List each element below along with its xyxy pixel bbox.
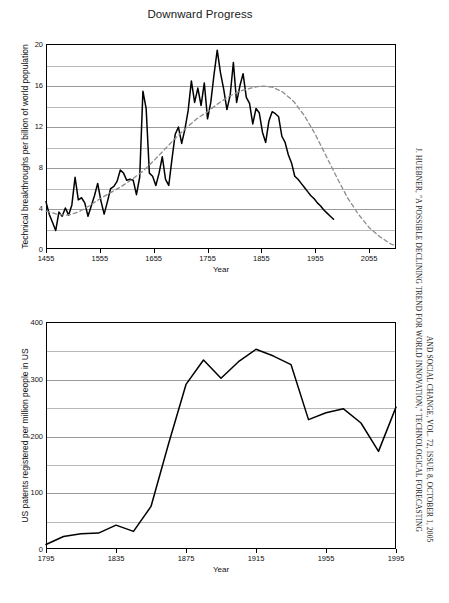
x-axis-tick-label: 1855 — [253, 254, 270, 263]
x-axis-tick-label: 1955 — [318, 554, 335, 563]
y-axis-tick-label: 300 — [28, 374, 43, 383]
y-axis-tick-label: 20 — [28, 40, 43, 49]
y-axis-tick-label: 12 — [28, 122, 43, 131]
x-axis-tick-label: 1555 — [92, 254, 109, 263]
y-axis-tick-label: 100 — [28, 488, 43, 497]
x-axis-tick — [116, 549, 117, 553]
x-axis-tick-label: 1955 — [307, 254, 324, 263]
x-axis-tick-label: 1995 — [388, 554, 405, 563]
citation-line-1: J. HUEBNER, "A POSSIBLE DECLINING TREND … — [414, 148, 423, 532]
x-axis-tick — [46, 249, 47, 253]
x-axis-tick — [208, 249, 209, 253]
x-axis-tick — [396, 549, 397, 553]
x-axis-tick — [46, 549, 47, 553]
y-axis-tick-label: 400 — [28, 318, 43, 327]
data-line — [46, 349, 396, 544]
x-axis-label: Year — [46, 565, 396, 574]
x-axis-tick-label: 1915 — [248, 554, 265, 563]
chart-innovation: 0481216201455155516551755185519552055Yea… — [0, 22, 410, 282]
x-axis-label: Year — [46, 265, 396, 274]
y-axis-tick-label: 4 — [28, 204, 43, 213]
y-axis-tick-label: 0 — [28, 545, 43, 554]
citation-line-2: AND SOCIAL CHANGE, VOL. 72, ISSUE 8, OCT… — [425, 336, 434, 542]
x-axis-tick-label: 1875 — [178, 554, 195, 563]
x-axis-tick-label: 1835 — [108, 554, 125, 563]
x-axis-tick — [186, 549, 187, 553]
x-axis-tick — [315, 249, 316, 253]
chart-us-patents: 0100200300400179518351875191519551995Yea… — [0, 300, 410, 600]
x-axis-tick — [369, 249, 370, 253]
x-axis-tick — [154, 249, 155, 253]
x-axis-tick-label: 1455 — [38, 254, 55, 263]
trend-line — [46, 86, 396, 246]
y-axis-tick-label: 200 — [28, 431, 43, 440]
y-axis-label: Technical breakthroughs per billion of w… — [20, 44, 30, 249]
x-axis-tick-label: 2055 — [361, 254, 378, 263]
y-axis-tick-label: 8 — [28, 163, 43, 172]
x-axis-tick-label: 1755 — [199, 254, 216, 263]
data-line — [46, 50, 334, 230]
x-axis-tick — [261, 249, 262, 253]
y-axis-tick-label: 16 — [28, 81, 43, 90]
x-axis-tick — [100, 249, 101, 253]
y-axis-label: US patents registered per million people… — [20, 322, 30, 549]
page-title: Downward Progress — [0, 8, 400, 20]
y-axis-tick-label: 0 — [28, 245, 43, 254]
x-axis-tick — [256, 549, 257, 553]
figure-root: Downward Progress 0481216201455155516551… — [0, 0, 449, 603]
x-axis-tick-label: 1655 — [145, 254, 162, 263]
x-axis-tick — [326, 549, 327, 553]
series-layer — [46, 44, 396, 249]
x-axis-tick-label: 1795 — [38, 554, 55, 563]
series-layer — [46, 322, 396, 549]
